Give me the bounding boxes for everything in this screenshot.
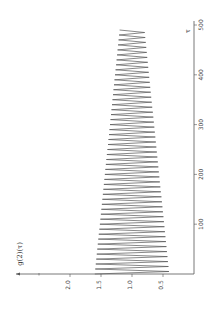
y-tick-label: 0.5 <box>157 280 164 290</box>
y-tick-label: 1.5 <box>95 280 102 290</box>
x-tick-label: 300 <box>197 119 204 131</box>
y-axis-arrow <box>16 273 20 276</box>
x-tick-label: 400 <box>197 69 204 81</box>
y-tick-label: 2.0 <box>64 280 71 290</box>
x-tick-label: 200 <box>197 168 204 180</box>
axes <box>16 21 194 276</box>
chart: 1002003004005000.51.01.52.0 τ g(2)(τ) <box>0 0 214 322</box>
x-tick-label: 500 <box>197 19 204 31</box>
series-line-g2 <box>95 30 169 274</box>
y-axis-label: g(2)(τ) <box>16 242 24 266</box>
x-axis-label: τ <box>184 29 192 33</box>
y-tick-label: 1.0 <box>126 280 133 290</box>
x-tick-label: 100 <box>197 218 204 230</box>
